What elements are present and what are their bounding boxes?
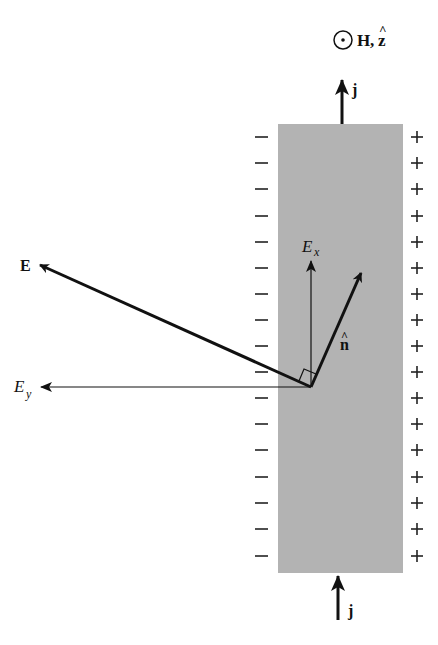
current-arrow-bottom: j xyxy=(338,576,353,620)
Ex-label: E xyxy=(301,237,313,256)
field-z-hat: ^ xyxy=(379,22,387,37)
current-arrow-top: j xyxy=(342,80,357,124)
magnetic-field-label: H , z ^ xyxy=(334,22,387,50)
current-bottom-label: j xyxy=(347,602,353,620)
current-top-label: j xyxy=(351,81,357,99)
field-H-label: H xyxy=(357,31,370,50)
Ex-subscript: x xyxy=(313,245,320,259)
field-comma: , xyxy=(370,31,374,50)
n-hat-hat: ^ xyxy=(341,329,348,343)
E-label: E xyxy=(20,257,31,274)
hall-effect-diagram: H , z ^ j j xyxy=(0,0,438,645)
Ey-label: E xyxy=(13,377,25,396)
negative-charges xyxy=(255,137,268,556)
positive-charges xyxy=(411,131,423,562)
vector-E: E xyxy=(20,257,311,387)
Ey-subscript: y xyxy=(25,387,32,401)
